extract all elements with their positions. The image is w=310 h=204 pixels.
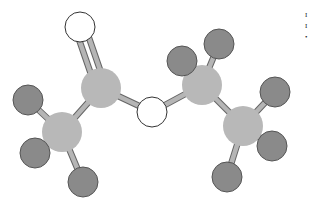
oxygen-atom-O1 bbox=[65, 12, 95, 42]
hydrogen-atom-H1 bbox=[13, 85, 43, 115]
molecule-diagram bbox=[0, 0, 310, 204]
hydrogen-atom-H8 bbox=[212, 162, 242, 192]
cut-off-text-line-1: I bbox=[305, 11, 307, 20]
carbon-atom-C1 bbox=[81, 68, 121, 108]
hydrogen-atom-H6 bbox=[260, 77, 290, 107]
carbon-atom-C4 bbox=[223, 106, 263, 146]
hydrogen-atom-H2 bbox=[20, 138, 50, 168]
hydrogen-atom-H5 bbox=[204, 29, 234, 59]
hydrogen-atom-H7 bbox=[257, 131, 287, 161]
hydrogen-atom-H3 bbox=[68, 167, 98, 197]
hydrogen-atom-H4 bbox=[167, 46, 197, 76]
oxygen-atom-O2 bbox=[137, 97, 167, 127]
cut-off-text-line-2: I bbox=[305, 22, 307, 31]
cut-off-text-line-3: • bbox=[305, 33, 307, 42]
atoms-layer bbox=[13, 12, 290, 197]
